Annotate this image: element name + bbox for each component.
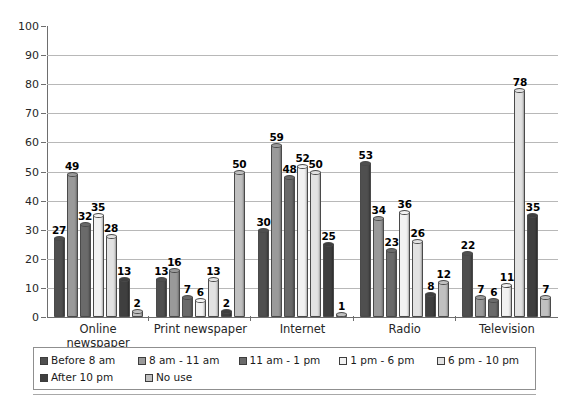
bar-slot: 28 [106, 26, 117, 317]
legend-swatch-icon [339, 357, 347, 365]
bar-value-label: 28 [104, 223, 118, 233]
legend-item[interactable]: 6 pm - 10 pm [437, 355, 535, 366]
bar-slot: 78 [514, 26, 525, 317]
bar-slot: 50 [234, 26, 245, 317]
bar-slot: 48 [284, 26, 295, 317]
bar-slot: 11 [501, 26, 512, 317]
bar-slot: 26 [412, 26, 423, 317]
legend-item[interactable]: Before 8 am [40, 355, 138, 366]
bar-groups: 2749323528132131676132503059485250251533… [47, 26, 558, 317]
x-axis-label: Radio [354, 322, 456, 350]
bar-value-label: 2 [223, 298, 230, 308]
bar-slot: 35 [527, 26, 538, 317]
bar-group: 5334233626812 [354, 26, 456, 317]
bar-slot: 13 [208, 26, 219, 317]
y-axis-tick-label: 80 [5, 79, 39, 90]
legend-swatch-icon [145, 374, 153, 382]
bar: 30 [258, 230, 269, 317]
bar-value-label: 53 [359, 150, 373, 160]
y-axis-tick-mark [41, 230, 46, 231]
bar-value-label: 59 [269, 132, 283, 142]
bar-value-label: 13 [206, 266, 220, 276]
bar-slot: 25 [323, 26, 334, 317]
y-axis-tick-label: 60 [5, 137, 39, 148]
bar: 27 [54, 238, 65, 317]
bar-slot: 6 [195, 26, 206, 317]
bar-slot: 8 [425, 26, 436, 317]
legend-item[interactable]: 8 am - 11 am [138, 355, 239, 366]
bar-value-label: 27 [52, 225, 66, 235]
bar-slot: 53 [360, 26, 371, 317]
bar: 26 [412, 241, 423, 317]
bar-value-label: 22 [461, 240, 475, 250]
y-axis-tick-label: 40 [5, 196, 39, 207]
bar-slot: 22 [462, 26, 473, 317]
legend-swatch-icon [40, 374, 48, 382]
bar-value-label: 30 [256, 217, 270, 227]
bar: 50 [234, 172, 245, 318]
bar: 50 [310, 172, 321, 318]
bar-value-label: 2 [134, 298, 141, 308]
legend-swatch-icon [239, 357, 247, 365]
bar: 35 [527, 215, 538, 317]
legend-item[interactable]: 11 am - 1 pm [239, 355, 340, 366]
legend-item[interactable]: After 10 pm [40, 372, 145, 383]
bar-slot: 50 [310, 26, 321, 317]
y-axis-tick-label: 0 [5, 312, 39, 323]
chart-legend: Before 8 am8 am - 11 am11 am - 1 pm1 pm … [33, 347, 536, 390]
legend-item[interactable]: 1 pm - 6 pm [339, 355, 437, 366]
x-axis-label: Internet [251, 322, 353, 350]
bar-group: 13167613250 [149, 26, 251, 317]
bar: 48 [284, 177, 295, 317]
gridline [47, 317, 558, 318]
bar-value-label: 49 [65, 161, 79, 171]
bar-slot: 1 [336, 26, 347, 317]
bar: 34 [373, 218, 384, 317]
bar-group: 2749323528132 [47, 26, 149, 317]
legend-swatch-icon [437, 357, 445, 365]
plot-area: 2749323528132131676132503059485250251533… [47, 26, 558, 317]
x-axis-category-labels: Online newspaperPrint newspaperInternetR… [47, 322, 558, 350]
grouped-bar-chart: 0102030405060708090100 27493235281321316… [0, 0, 575, 405]
bar: 6 [488, 300, 499, 317]
y-axis-tick-label: 10 [5, 283, 39, 294]
bar: 13 [208, 279, 219, 317]
x-axis-label: Print newspaper [149, 322, 251, 350]
bar-slot: 23 [386, 26, 397, 317]
legend-label: No use [156, 372, 192, 383]
y-axis-tick-labels: 0102030405060708090100 [0, 26, 39, 317]
bar-value-label: 7 [477, 284, 484, 294]
legend-item[interactable]: No use [145, 372, 253, 383]
bar-value-label: 7 [542, 284, 549, 294]
bar: 7 [475, 297, 486, 317]
bar-slot: 35 [93, 26, 104, 317]
bar-value-label: 6 [490, 287, 497, 297]
bar-slot: 2 [132, 26, 143, 317]
y-axis-tick-mark [41, 142, 46, 143]
legend-label: After 10 pm [51, 372, 113, 383]
bar-slot: 16 [169, 26, 180, 317]
bar: 53 [360, 163, 371, 317]
bar-slot: 7 [475, 26, 486, 317]
y-axis-tick-mark [41, 113, 46, 114]
bar: 2 [221, 311, 232, 317]
bar-slot: 13 [156, 26, 167, 317]
bar: 12 [438, 282, 449, 317]
y-axis-tick-mark [41, 26, 46, 27]
bar: 2 [132, 311, 143, 317]
bar-value-label: 34 [372, 205, 386, 215]
bar-value-label: 8 [427, 281, 434, 291]
bar: 59 [271, 145, 282, 317]
legend-label: Before 8 am [51, 355, 115, 366]
y-axis-tick-mark [41, 317, 46, 318]
bar-value-label: 12 [437, 269, 451, 279]
bar-slot: 27 [54, 26, 65, 317]
bar: 28 [106, 236, 117, 317]
bar-slot: 36 [399, 26, 410, 317]
bar-value-label: 50 [308, 159, 322, 169]
bar-group: 3059485250251 [251, 26, 353, 317]
bar: 11 [501, 285, 512, 317]
y-axis-tick-mark [41, 172, 46, 173]
bar-value-label: 7 [184, 284, 191, 294]
bar-value-label: 23 [385, 237, 399, 247]
